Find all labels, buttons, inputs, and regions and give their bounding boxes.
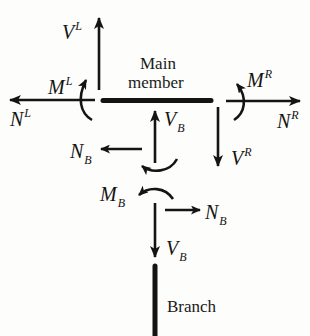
mb-branch-moment-arrow-icon xyxy=(139,189,173,199)
nb-right-label: NB xyxy=(205,202,227,222)
main-member-label-line2: member xyxy=(128,74,184,91)
nr-label: NR xyxy=(277,111,299,131)
vb-up-label: VB xyxy=(164,109,185,129)
free-body-diagram xyxy=(0,0,310,336)
mb-main-moment-arrow-icon xyxy=(142,159,177,171)
nb-left-label: NB xyxy=(70,141,92,161)
vr-label: VR xyxy=(231,148,252,168)
branch-label: Branch xyxy=(167,298,216,315)
mb-label: MB xyxy=(100,184,125,204)
vb-down-label: VB xyxy=(166,238,187,258)
main-member-label-line1: Main xyxy=(140,55,176,72)
nl-label: NL xyxy=(10,109,31,129)
vl-label: VL xyxy=(62,22,82,42)
mr-label: MR xyxy=(247,70,272,90)
ml-label: ML xyxy=(48,77,72,97)
